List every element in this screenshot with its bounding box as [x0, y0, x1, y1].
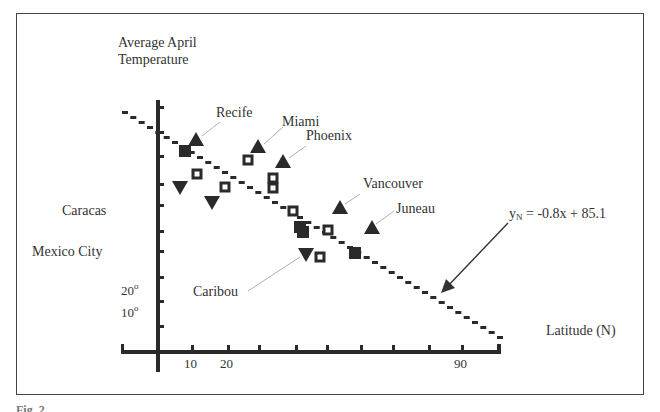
- open-square-marker: [244, 156, 252, 164]
- triangle-up-marker: [332, 200, 348, 214]
- equation-arrow-icon: [441, 223, 508, 293]
- x-tick-label-20: 20: [220, 356, 233, 372]
- y-tick-label-20: 20o: [121, 281, 139, 299]
- filled-square-marker: [297, 226, 309, 238]
- triangle-up-marker: [188, 132, 204, 146]
- open-square-marker: [289, 207, 297, 215]
- label-caracas: Caracas: [62, 203, 106, 219]
- open-square-marker: [193, 170, 201, 178]
- y-axis-title-line2: Temperature: [118, 52, 189, 68]
- y-tick-label-10: 10o: [121, 303, 139, 321]
- open-square-marker: [316, 253, 324, 261]
- label-juneau: Juneau: [396, 201, 435, 217]
- triangle-up-marker: [364, 220, 380, 234]
- filled-square-marker: [349, 247, 361, 259]
- label-mexico-city: Mexico City: [32, 244, 102, 260]
- x-tick-label-10: 10: [184, 356, 197, 372]
- y-axis-line: [156, 100, 160, 372]
- regression-equation: yN = -0.8x + 85.1: [509, 206, 606, 225]
- open-square-marker: [269, 174, 277, 182]
- data-markers: [172, 132, 380, 262]
- x-axis-title: Latitude (N): [546, 323, 616, 339]
- filled-square-marker: [179, 145, 191, 157]
- label-recife: Recife: [216, 105, 253, 121]
- open-square-marker: [324, 226, 332, 234]
- open-square-marker: [269, 184, 277, 192]
- label-phoenix: Phoenix: [306, 128, 352, 144]
- triangle-down-marker: [204, 196, 220, 210]
- triangle-down-marker: [298, 248, 314, 262]
- figure-caption: Fig. 2.: [16, 403, 48, 412]
- label-caribou: Caribou: [193, 284, 238, 300]
- x-tick-label-90: 90: [454, 356, 467, 372]
- y-axis-title-line1: Average April: [118, 35, 197, 51]
- open-square-marker: [221, 183, 229, 191]
- triangle-up-marker: [250, 139, 266, 153]
- label-vancouver: Vancouver: [363, 176, 423, 192]
- triangle-down-marker: [172, 181, 188, 195]
- x-axis-line: [121, 350, 501, 354]
- triangle-up-marker: [275, 154, 291, 168]
